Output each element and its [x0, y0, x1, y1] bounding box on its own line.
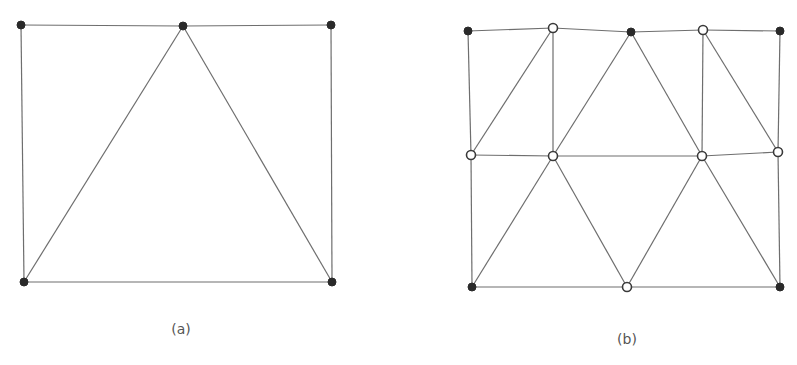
- mesh-edge: [472, 156, 553, 287]
- figure-a-mesh: [17, 21, 336, 286]
- mesh-edge: [468, 31, 471, 155]
- mesh-edge: [183, 25, 331, 26]
- mesh-edge: [631, 30, 703, 32]
- open-node: [549, 152, 558, 161]
- open-node: [774, 148, 783, 157]
- mesh-edge: [553, 156, 627, 287]
- mesh-edge: [703, 30, 778, 152]
- figure-b-caption: (b): [617, 331, 637, 347]
- mesh-edge: [183, 26, 332, 282]
- mesh-edge: [331, 25, 332, 282]
- mesh-edge: [702, 156, 780, 287]
- mesh-edge: [702, 30, 703, 156]
- mesh-edge: [627, 156, 702, 287]
- mesh-edge: [703, 30, 780, 31]
- filled-node: [17, 21, 25, 29]
- filled-node: [327, 21, 335, 29]
- mesh-edge: [24, 26, 183, 282]
- filled-node: [776, 283, 784, 291]
- filled-node: [328, 278, 336, 286]
- diagram-canvas: [0, 0, 797, 365]
- figure-a-caption: (a): [171, 321, 191, 337]
- mesh-edge: [471, 28, 553, 155]
- mesh-edge: [631, 32, 702, 156]
- filled-node: [468, 283, 476, 291]
- mesh-edge: [778, 31, 780, 152]
- mesh-edge: [778, 152, 780, 287]
- figure-b-refined-mesh: [464, 24, 784, 292]
- mesh-edge: [553, 32, 631, 156]
- filled-node: [464, 27, 472, 35]
- mesh-edge: [21, 25, 24, 282]
- filled-node: [776, 27, 784, 35]
- filled-node: [179, 22, 187, 30]
- filled-node: [627, 28, 635, 36]
- mesh-edge: [471, 155, 472, 287]
- open-node: [698, 152, 707, 161]
- filled-node: [20, 278, 28, 286]
- mesh-edge: [702, 152, 778, 156]
- open-node: [623, 283, 632, 292]
- mesh-edge: [471, 155, 553, 156]
- mesh-edge: [21, 25, 183, 26]
- mesh-edge: [468, 28, 553, 31]
- open-node: [699, 26, 708, 35]
- open-node: [467, 151, 476, 160]
- open-node: [549, 24, 558, 33]
- mesh-edge: [553, 28, 631, 32]
